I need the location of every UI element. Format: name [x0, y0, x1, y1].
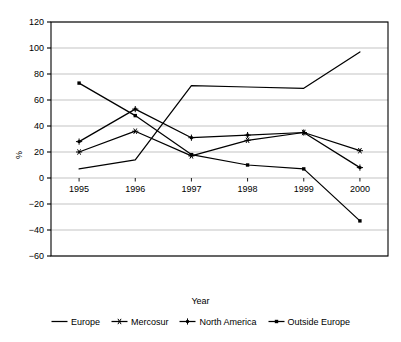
line-chart: 120100806040200−20−40−601995199619971998… [0, 0, 401, 342]
data-point-marker [190, 136, 193, 139]
x-axis-ticks: 199519961997199819992000 [69, 178, 370, 194]
x-tick-label: 1999 [294, 184, 314, 194]
plot-area: 120100806040200−20−40−601995199619971998… [0, 0, 401, 300]
y-tick-label: −60 [29, 251, 44, 261]
x-axis-title: Year [0, 296, 401, 306]
data-point-marker [302, 167, 305, 170]
gridlines [51, 22, 388, 256]
data-point-marker [77, 81, 80, 84]
x-tick-label: 1997 [181, 184, 201, 194]
data-point-marker [190, 153, 193, 156]
y-tick-label: −20 [29, 199, 44, 209]
x-tick-label: 1995 [69, 184, 89, 194]
dot-marker-icon [268, 316, 285, 327]
y-tick-label: −40 [29, 225, 44, 235]
x-tick-label: 1996 [125, 184, 145, 194]
legend-item-europe[interactable]: Europe [51, 316, 100, 327]
data-point-marker [274, 320, 277, 323]
y-axis-ticks: 120100806040200−20−40−60 [29, 17, 51, 261]
star-marker-icon [179, 316, 196, 327]
y-tick-label: 100 [29, 43, 44, 53]
data-point-marker [134, 114, 137, 117]
data-point-marker [358, 219, 361, 222]
legend-label: Mercosur [131, 317, 169, 327]
legend-label: North America [199, 317, 256, 327]
plot-svg: 120100806040200−20−40−601995199619971998… [0, 0, 401, 300]
series-europe [79, 52, 360, 169]
data-point-marker [134, 108, 137, 111]
series-mercosur [76, 129, 363, 159]
legend-item-north-america[interactable]: North America [179, 316, 256, 327]
y-tick-label: 120 [29, 17, 44, 27]
legend-label: Outside Europe [288, 317, 351, 327]
data-point-marker [246, 163, 249, 166]
data-point-marker [359, 166, 362, 169]
legend-item-mercosur[interactable]: Mercosur [111, 316, 169, 327]
data-point-marker [187, 320, 190, 323]
data-point-marker [302, 131, 305, 134]
series-line [79, 109, 360, 168]
axis-frame [51, 22, 388, 256]
y-tick-label: 20 [34, 147, 44, 157]
y-tick-label: 0 [39, 173, 44, 183]
chart-legend: EuropeMercosurNorth AmericaOutside Europ… [0, 316, 401, 327]
legend-item-outside-europe[interactable]: Outside Europe [268, 316, 351, 327]
asterisk-marker-icon [111, 316, 128, 327]
plot-frame [51, 22, 388, 256]
y-tick-label: 40 [34, 121, 44, 131]
data-point-marker [78, 140, 81, 143]
legend-label: Europe [71, 317, 100, 327]
x-tick-label: 1998 [238, 184, 258, 194]
data-point-marker [246, 134, 249, 137]
y-tick-label: 80 [34, 69, 44, 79]
y-tick-label: 60 [34, 95, 44, 105]
series-line [79, 52, 360, 169]
line-icon [51, 316, 68, 327]
y-axis-label: % [14, 151, 24, 159]
x-tick-label: 2000 [350, 184, 370, 194]
